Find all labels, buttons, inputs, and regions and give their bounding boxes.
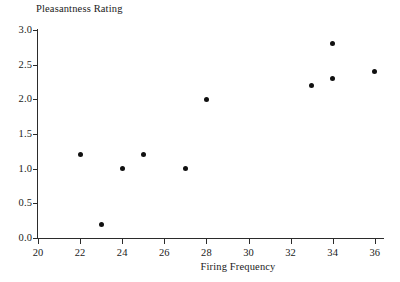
x-tick-label: 32: [276, 248, 306, 259]
data-point: [204, 97, 209, 102]
x-axis-title: Firing Frequency: [200, 261, 275, 272]
y-tick-label: 0.0: [0, 233, 32, 244]
x-tick: [249, 239, 250, 244]
plot-area: [38, 30, 383, 238]
y-tick-label: 2.0: [0, 94, 32, 105]
scatter-plot-figure: Pleasantness Rating 0.00.51.01.52.02.53.…: [0, 0, 400, 282]
x-axis-title-wrap: Firing Frequency: [0, 261, 400, 272]
x-tick: [164, 239, 165, 244]
x-tick-label: 36: [360, 248, 390, 259]
x-tick-label: 34: [318, 248, 348, 259]
x-tick: [333, 239, 334, 244]
y-tick-label: 1.5: [0, 129, 32, 140]
x-tick-label: 26: [149, 248, 179, 259]
x-tick-label: 22: [65, 248, 95, 259]
data-point: [120, 166, 125, 171]
x-tick: [122, 239, 123, 244]
x-tick: [206, 239, 207, 244]
y-tick-label: 0.5: [0, 198, 32, 209]
y-axis-title: Pleasantness Rating: [36, 3, 123, 14]
x-tick-label: 24: [107, 248, 137, 259]
data-point: [99, 222, 104, 227]
x-tick: [80, 239, 81, 244]
x-tick-label: 20: [23, 248, 53, 259]
x-tick: [38, 239, 39, 244]
y-tick-label: 3.0: [0, 25, 32, 36]
x-tick: [291, 239, 292, 244]
y-tick-label: 2.5: [0, 60, 32, 71]
x-tick-label: 30: [234, 248, 264, 259]
x-tick: [375, 239, 376, 244]
x-tick-label: 28: [191, 248, 221, 259]
y-tick-label: 1.0: [0, 164, 32, 175]
